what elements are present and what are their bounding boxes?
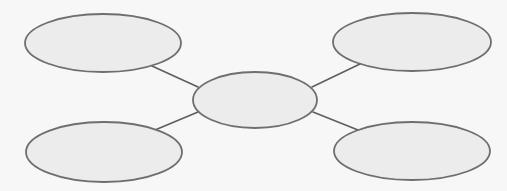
connector-line-bottom-right (313, 112, 358, 130)
oval-node-bottom-right (334, 122, 490, 180)
connector-line-top-right (312, 64, 360, 87)
diagram-canvas (0, 0, 507, 191)
oval-node-bottom-left (26, 122, 182, 182)
oval-node-top-left (25, 14, 181, 72)
oval-node-top-right (333, 13, 491, 71)
connector-line-top-left (152, 66, 198, 87)
oval-shape (334, 122, 490, 180)
spider-diagram (0, 0, 507, 191)
oval-node-center (193, 72, 317, 128)
oval-shape (25, 14, 181, 72)
oval-shape (193, 72, 317, 128)
oval-shape (333, 13, 491, 71)
oval-nodes (25, 13, 491, 182)
connector-line-bottom-left (155, 112, 198, 130)
oval-shape (26, 122, 182, 182)
